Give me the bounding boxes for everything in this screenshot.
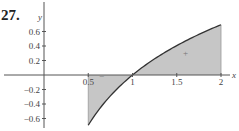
y-tick-label: 0.2: [29, 56, 40, 66]
chart: xy0.511.520.60.40.2−0.2−0.4−0.6−+: [0, 0, 239, 131]
y-tick-label: −0.4: [24, 99, 41, 109]
x-tick-label: 1: [130, 77, 135, 87]
plus-sign: +: [183, 48, 188, 58]
y-axis-label: y: [37, 12, 42, 22]
y-tick-label: 0.4: [29, 41, 41, 51]
minus-sign: −: [99, 71, 104, 81]
x-tick-label: 1.5: [171, 77, 183, 87]
y-tick-label: −0.6: [24, 114, 41, 124]
y-tick-label: −0.2: [24, 85, 40, 95]
x-axis-label: x: [231, 70, 236, 80]
x-tick-label: 2: [219, 77, 224, 87]
x-tick-label: 0.5: [83, 77, 95, 87]
y-tick-label: 0.6: [29, 27, 41, 37]
